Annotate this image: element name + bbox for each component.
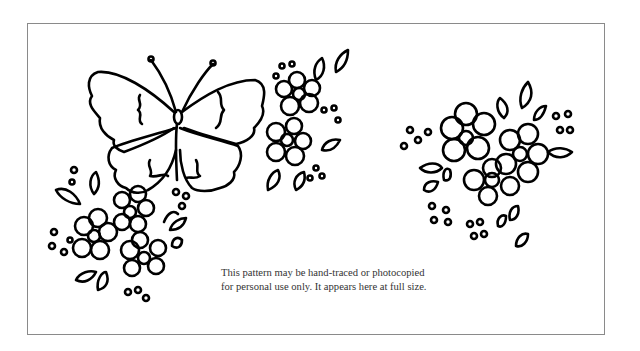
butterfly-icon: [89, 57, 264, 193]
caption-line-1: This pattern may be hand-traced or photo…: [221, 266, 481, 280]
flower-cluster-top-center: [267, 50, 348, 190]
embroidery-pattern-art: [0, 0, 640, 351]
flower-cluster-bottom-left: [49, 167, 189, 301]
flower-cluster-right: [401, 82, 573, 246]
caption-line-2: for personal use only. It appears here a…: [221, 280, 481, 294]
usage-caption: This pattern may be hand-traced or photo…: [221, 266, 481, 294]
